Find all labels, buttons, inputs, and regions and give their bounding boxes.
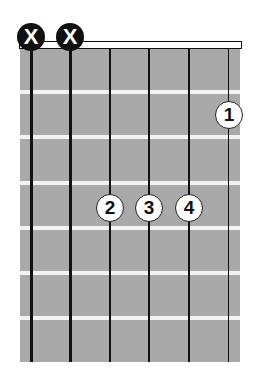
finger-marker-1: 1 (215, 101, 243, 129)
fret-line (20, 181, 240, 185)
string-6 (228, 48, 229, 362)
nut (19, 41, 242, 49)
fretboard (20, 48, 240, 362)
finger-marker-2: 2 (96, 194, 124, 222)
mute-marker: X (56, 23, 84, 51)
fret-line (20, 90, 240, 94)
fret-line (20, 226, 240, 230)
mute-marker: X (17, 23, 45, 51)
fret-line (20, 316, 240, 320)
fret-line (20, 135, 240, 139)
fret-line (20, 271, 240, 275)
finger-marker-4: 4 (175, 194, 203, 222)
finger-marker-3: 3 (135, 194, 163, 222)
string-1 (30, 48, 33, 362)
string-2 (69, 48, 72, 362)
